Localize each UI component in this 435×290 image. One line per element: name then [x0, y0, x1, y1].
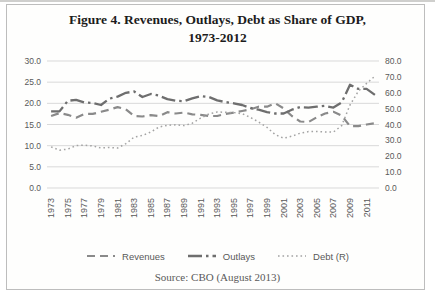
legend-item-revenues: Revenues: [86, 251, 165, 262]
x-axis-tick-label: 1973: [46, 198, 56, 218]
legend-item-outlays: Outlays: [187, 251, 255, 262]
x-axis-tick-label: 1981: [113, 198, 123, 218]
left-axis-tick-label: 0.0: [29, 183, 41, 193]
x-axis-tick-label: 1983: [129, 198, 139, 218]
source-caption: Source: CBO (August 2013): [0, 271, 435, 283]
x-axis-tick-label: 1999: [262, 198, 272, 218]
left-axis-tick-label: 5.0: [29, 162, 41, 172]
right-axis-tick-label: 50.0: [385, 104, 402, 114]
x-axis-tick-label: 1975: [63, 198, 73, 218]
legend-sample-outlays: [187, 252, 217, 260]
legend-label-revenues: Revenues: [122, 251, 165, 262]
x-axis-tick-label: 1991: [196, 198, 206, 218]
x-axis-tick-label: 1989: [179, 198, 189, 218]
left-axis-tick-label: 10.0: [24, 141, 41, 151]
x-axis-tick-label: 2001: [279, 198, 289, 218]
x-axis-tick-label: 1977: [79, 198, 89, 218]
left-axis-tick-label: 20.0: [24, 98, 41, 108]
x-axis-tick-label: 2007: [328, 198, 338, 218]
x-axis-tick-label: 1993: [212, 198, 222, 218]
right-axis-tick-label: 0.0: [385, 183, 397, 193]
right-axis-tick-label: 40.0: [385, 120, 402, 130]
x-axis-tick-label: 1987: [162, 198, 172, 218]
left-axis-tick-label: 25.0: [24, 77, 41, 87]
x-axis-tick-label: 1995: [229, 198, 239, 218]
legend-sample-revenues: [86, 252, 116, 260]
legend-label-outlays: Outlays: [223, 251, 255, 262]
series-line-outlays: [51, 85, 375, 114]
x-axis-tick-label: 1985: [146, 198, 156, 218]
right-axis-tick-label: 70.0: [385, 72, 402, 82]
x-axis-tick-label: 1979: [96, 198, 106, 218]
left-axis-tick-label: 15.0: [24, 120, 41, 130]
x-axis-tick-label: 2005: [312, 198, 322, 218]
right-axis-tick-label: 10.0: [385, 167, 402, 177]
legend-label-debt-r: Debt (R): [313, 251, 349, 262]
legend: RevenuesOutlaysDebt (R): [0, 248, 435, 264]
left-axis-tick-label: 30.0: [24, 56, 41, 66]
legend-sample-debt-r: [277, 252, 307, 260]
series-line-revenues: [51, 103, 375, 126]
x-axis-tick-label: 2003: [295, 198, 305, 218]
x-axis-tick-label: 2009: [345, 198, 355, 218]
right-axis-tick-label: 30.0: [385, 135, 402, 145]
x-axis-tick-label: 2011: [362, 198, 372, 217]
legend-item-debt-r: Debt (R): [277, 251, 349, 262]
right-axis-tick-label: 20.0: [385, 151, 402, 161]
right-axis-tick-label: 80.0: [385, 56, 402, 66]
x-axis-tick-label: 1997: [245, 198, 255, 218]
right-axis-tick-label: 60.0: [385, 88, 402, 98]
